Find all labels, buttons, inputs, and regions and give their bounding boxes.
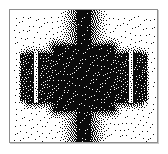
- image-frame: [9, 9, 158, 143]
- dither-pattern-canvas: [10, 10, 157, 142]
- figure-root: [0, 0, 168, 154]
